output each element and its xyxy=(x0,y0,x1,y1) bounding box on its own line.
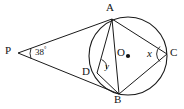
vertex-label-c: C xyxy=(170,47,177,58)
angle-label-y: y xyxy=(105,62,109,71)
angle-label-38-degrees: 38° xyxy=(35,46,46,57)
angle-label-x: x xyxy=(147,48,152,59)
geometry-canvas xyxy=(0,0,184,109)
degree-symbol: ° xyxy=(44,46,46,52)
line-p-through-d-to-b xyxy=(18,53,119,94)
vertex-label-a: A xyxy=(106,2,114,13)
vertex-label-d: D xyxy=(82,66,90,77)
centre-label-o: O xyxy=(117,47,125,58)
vertex-label-p: P xyxy=(5,45,11,56)
line-p-to-a xyxy=(18,19,112,53)
vertex-label-b: B xyxy=(114,94,121,105)
angle-arc-p xyxy=(30,48,31,58)
geometry-figure: A B C D O P 38° x y xyxy=(0,0,184,109)
chord-c-b xyxy=(119,54,167,94)
angle-value-38: 38 xyxy=(35,47,44,57)
centre-point-dot xyxy=(126,54,130,58)
